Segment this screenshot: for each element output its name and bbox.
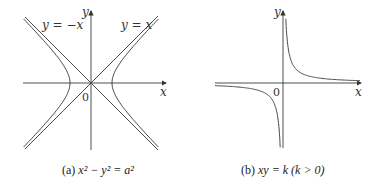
origin-label: 0 bbox=[273, 86, 280, 99]
y-axis-label: y bbox=[81, 5, 89, 19]
figure: y x 0 y = −x y = x (a) x² − y² = a² y x … bbox=[0, 0, 375, 180]
caption-a: (a) x² − y² = a² bbox=[62, 163, 134, 177]
caption-b: (b) xy = k (k > 0) bbox=[241, 163, 325, 177]
figure-a: y x 0 y = −x y = x (a) x² − y² = a² bbox=[23, 5, 167, 177]
y-axis-label: y bbox=[273, 5, 281, 19]
x-axis-label: x bbox=[160, 85, 167, 99]
asymptote-neg bbox=[25, 17, 158, 150]
hyperbola-third-quadrant-branch bbox=[215, 86, 280, 148]
origin-label: 0 bbox=[82, 91, 89, 104]
asymptote-right-label: y = x bbox=[120, 18, 152, 32]
x-axis-label: x bbox=[355, 85, 362, 99]
asymptote-left-label: y = −x bbox=[41, 18, 84, 32]
hyperbola-first-quadrant-branch bbox=[286, 19, 360, 81]
figure-b: y x 0 (b) xy = k (k > 0) bbox=[215, 5, 362, 177]
asymptote-pos bbox=[25, 16, 158, 149]
